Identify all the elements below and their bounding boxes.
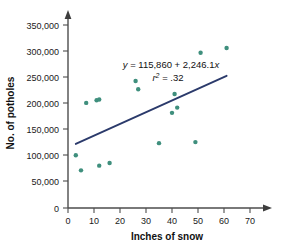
scatter-point [136, 87, 140, 91]
svg-text:y = 115,860 + 2,246.1x: y = 115,860 + 2,246.1x [122, 59, 221, 70]
figure-background [0, 0, 283, 246]
scatter-point [198, 51, 202, 55]
x-tick-label: 50 [193, 216, 203, 226]
scatter-point [107, 161, 111, 165]
equation-body: = 115,860 + 2,246.1 [128, 59, 215, 70]
x-tick-label: 40 [167, 216, 177, 226]
scatter-point [97, 97, 101, 101]
x-tick-label: 70 [245, 216, 255, 226]
scatter-point [170, 111, 174, 115]
scatter-point [74, 153, 78, 157]
scatter-point [79, 168, 83, 172]
y-tick-label: 200,000 [26, 99, 59, 109]
x-tick-label: 60 [219, 216, 229, 226]
x-axis-title: Inches of snow [131, 231, 203, 242]
scatter-point [193, 140, 197, 144]
y-tick-label: 100,000 [26, 151, 59, 161]
scatter-point [224, 46, 228, 50]
scatter-point [175, 105, 179, 109]
x-tick-label: 0 [65, 216, 70, 226]
y-tick-label: 150,000 [26, 125, 59, 135]
scatter-point [133, 79, 137, 83]
y-tick-label: 300,000 [26, 47, 59, 57]
x-tick-label: 30 [141, 216, 151, 226]
r-squared-value: = .32 [160, 72, 184, 83]
x-tick-label: 20 [115, 216, 125, 226]
y-tick-label-zero: 0 [54, 204, 59, 214]
y-axis-title: No. of potholes [5, 76, 16, 149]
y-tick-label: 50,000 [31, 177, 59, 187]
y-tick-label: 350,000 [26, 21, 59, 31]
x-tick-label: 10 [89, 216, 99, 226]
scatter-plot-figure: 350,000 300,000 250,000 200,000 150,000 … [0, 0, 283, 246]
scatter-point [157, 141, 161, 145]
scatter-point [84, 101, 88, 105]
y-tick-label: 250,000 [26, 73, 59, 83]
scatter-point [97, 163, 101, 167]
scatter-point [172, 92, 176, 96]
